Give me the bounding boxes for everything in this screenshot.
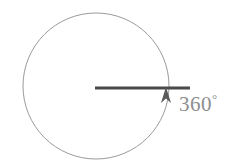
rotation-circle: [23, 13, 169, 159]
diagram-svg: [0, 0, 246, 167]
angle-value: 360: [179, 92, 212, 116]
diagram-canvas: 360°: [0, 0, 246, 167]
angle-label: 360°: [179, 92, 218, 115]
degree-symbol: °: [212, 91, 218, 106]
